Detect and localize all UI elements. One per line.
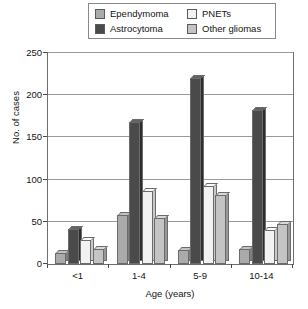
y-axis-tick-label: 200 — [26, 89, 42, 100]
legend-swatch-pnets — [187, 9, 197, 19]
bar — [277, 224, 288, 264]
legend-label-ependymoma: Ependymoma — [110, 9, 169, 19]
legend-swatch-ependymoma — [95, 9, 105, 19]
y-axis-tick-label: 50 — [31, 215, 42, 226]
bar-face — [215, 195, 226, 264]
bar — [80, 240, 91, 264]
bar-side — [226, 192, 229, 261]
bar — [252, 110, 263, 264]
y-axis-tick-mark — [43, 179, 47, 180]
gridline — [48, 52, 293, 53]
legend-item-pnets: PNETs — [187, 9, 283, 19]
gridline — [48, 94, 293, 95]
bar — [264, 230, 275, 264]
legend-label-astrocytoma: Astrocytoma — [110, 24, 163, 34]
x-axis-tick-mark — [231, 264, 232, 268]
bar-face — [154, 218, 165, 264]
y-axis-tick-label: 250 — [26, 47, 42, 58]
x-axis-tick-label: 5-9 — [193, 270, 207, 281]
bar — [55, 253, 66, 264]
bar — [68, 229, 79, 264]
x-axis-ticks — [47, 264, 293, 269]
bar-face — [129, 122, 140, 264]
x-axis-tick-labels: <11-45-910-14 — [47, 270, 293, 284]
bar — [203, 186, 214, 264]
x-axis-tick-mark — [108, 264, 109, 268]
bar-face — [239, 249, 250, 264]
bar-top — [69, 226, 83, 229]
bar-side — [165, 215, 168, 261]
plot-area — [47, 52, 294, 265]
y-axis-tick-mark — [43, 136, 47, 137]
x-axis-tick-label: 1-4 — [132, 270, 146, 281]
bar-face — [264, 230, 275, 264]
bar — [190, 78, 201, 264]
y-axis-tick-labels: 050100150200250 — [13, 52, 42, 263]
legend-swatch-other-gliomas — [187, 24, 197, 34]
bar-top — [204, 183, 218, 186]
x-axis-tick-mark — [170, 264, 171, 268]
bar-top — [143, 188, 157, 191]
bar — [129, 122, 140, 264]
legend-item-ependymoma: Ependymoma — [95, 9, 187, 19]
y-axis-tick-label: 0 — [37, 258, 42, 269]
bar — [178, 250, 189, 264]
bar-face — [190, 78, 201, 264]
bar-face — [178, 250, 189, 264]
bar-face — [203, 186, 214, 264]
legend-item-other-gliomas: Other gliomas — [187, 24, 283, 34]
x-axis-title: Age (years) — [47, 288, 293, 299]
y-axis-tick-mark — [43, 52, 47, 53]
bar — [93, 249, 104, 264]
bar-side — [288, 221, 291, 261]
bar-face — [55, 253, 66, 264]
bar-face — [93, 249, 104, 264]
bar-face — [68, 229, 79, 264]
legend-label-other-gliomas: Other gliomas — [202, 24, 261, 34]
y-axis-tick-label: 150 — [26, 131, 42, 142]
bar-face — [142, 191, 153, 264]
y-axis-tick-mark — [43, 94, 47, 95]
x-axis-tick-mark — [292, 264, 293, 268]
chart-container: Ependymoma PNETs Astrocytoma Other gliom… — [0, 0, 308, 309]
bar — [142, 191, 153, 264]
legend-item-astrocytoma: Astrocytoma — [95, 24, 187, 34]
bar — [154, 218, 165, 264]
chart-legend: Ependymoma PNETs Astrocytoma Other gliom… — [88, 3, 276, 39]
bar-face — [277, 224, 288, 264]
x-axis-tick-mark — [47, 264, 48, 268]
bar — [239, 249, 250, 264]
bar-face — [117, 215, 128, 264]
y-axis-tick-label: 100 — [26, 173, 42, 184]
bar — [215, 195, 226, 264]
bar — [117, 215, 128, 264]
x-axis-tick-label: 10-14 — [249, 270, 273, 281]
bar-face — [80, 240, 91, 264]
y-axis-tick-mark — [43, 221, 47, 222]
legend-label-pnets: PNETs — [202, 9, 231, 19]
legend-swatch-astrocytoma — [95, 24, 105, 34]
bar-face — [252, 110, 263, 264]
x-axis-tick-label: <1 — [72, 270, 83, 281]
